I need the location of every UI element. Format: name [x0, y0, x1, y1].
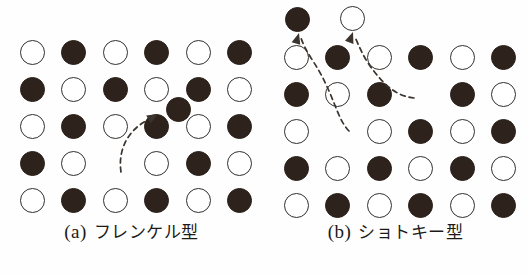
- lattice-atom-filled-r2c3: [367, 82, 392, 107]
- lattice-atom-filled-r1c4: [408, 45, 433, 70]
- lattice-atom-filled-r2c5: [186, 77, 211, 102]
- lattice-atom-open-r3c5: [186, 114, 211, 139]
- lattice-atom-filled-r3c2: [61, 114, 86, 139]
- lattice-atom-filled-r2c1: [284, 82, 309, 107]
- lattice-atom-open-r4c6: [227, 151, 252, 176]
- lattice-atom-filled-r2c3: [103, 77, 128, 102]
- lattice-atom-open-r4c6: [491, 156, 516, 181]
- lattice-grid-b: [264, 0, 527, 215]
- lattice-atom-filled-r2c5: [450, 82, 475, 107]
- lattice-atom-open-r5c5: [186, 188, 211, 213]
- lattice-atom-open-r4c4: [144, 151, 169, 176]
- lattice-atom-open-r1c5: [186, 40, 211, 65]
- panel-frenkel: (a)フレンケル型: [0, 0, 263, 275]
- lattice-atom-filled-r5c4: [144, 188, 169, 213]
- lattice-atom-open-r5c3: [367, 193, 392, 218]
- lattice-atom-filled-r5c2: [325, 193, 350, 218]
- caption-a: (a)フレンケル型: [0, 218, 263, 243]
- lattice-atom-open-r3c1: [20, 114, 45, 139]
- lattice-atom-open-r2c4: [144, 77, 169, 102]
- lattice-atom-open-r4c4: [408, 156, 433, 181]
- lattice-atom-filled-r1c2: [325, 45, 350, 70]
- lattice-atom-open-r1c5: [450, 45, 475, 70]
- lattice-atom-filled-r2c1: [20, 77, 45, 102]
- lattice-atom-open-r1c3: [103, 40, 128, 65]
- lattice-atom-filled-r4c1: [284, 156, 309, 181]
- lattice-atom-open-r2c6: [227, 77, 252, 102]
- lattice-atom-filled-r3c6: [227, 114, 252, 139]
- lattice-atom-filled-r5c6: [227, 188, 252, 213]
- lattice-atom-open-r3c1: [284, 119, 309, 144]
- lattice-atom-filled-r3c4: [144, 114, 169, 139]
- lattice-atom-filled-r5c4: [408, 193, 433, 218]
- lattice-atom-filled-r3c6: [491, 119, 516, 144]
- lattice-atom-open-r1c1: [20, 40, 45, 65]
- lattice-atom-open-r5c3: [103, 188, 128, 213]
- lattice-atom-filled-r5c6: [491, 193, 516, 218]
- caption-b-label: ショトキー型: [358, 222, 463, 242]
- lattice-atom-filled-r4c5: [186, 151, 211, 176]
- lattice-atom-open-r2c6: [491, 82, 516, 107]
- lattice-atom-open-r3c5: [450, 119, 475, 144]
- surface-atom-filled: [285, 7, 310, 32]
- lattice-atom-open-r3c3: [103, 114, 128, 139]
- lattice-atom-filled-r4c3: [367, 156, 392, 181]
- lattice-atom-open-r1c3: [367, 45, 392, 70]
- surface-atom-open: [340, 6, 365, 31]
- lattice-atom-open-r5c5: [450, 193, 475, 218]
- interstitial-atom: [166, 97, 191, 122]
- lattice-atom-open-r4c2: [61, 151, 86, 176]
- lattice-atom-open-r3c3: [367, 119, 392, 144]
- lattice-atom-open-r2c2: [61, 77, 86, 102]
- caption-a-index: (a): [64, 221, 87, 242]
- lattice-atom-filled-r1c6: [227, 40, 252, 65]
- lattice-atom-open-r5c1: [20, 188, 45, 213]
- lattice-atom-filled-r1c4: [144, 40, 169, 65]
- lattice-grid-a: [0, 0, 263, 215]
- caption-b-index: (b): [328, 221, 352, 242]
- caption-a-label: フレンケル型: [94, 222, 199, 242]
- caption-b: (b)ショトキー型: [264, 218, 527, 243]
- lattice-atom-open-r1c1: [284, 45, 309, 70]
- lattice-atom-filled-r1c2: [61, 40, 86, 65]
- lattice-atom-filled-r3c4: [408, 119, 433, 144]
- lattice-atom-filled-r4c1: [20, 151, 45, 176]
- lattice-atom-filled-r4c5: [450, 156, 475, 181]
- lattice-atom-open-r5c1: [284, 193, 309, 218]
- lattice-atom-open-r2c2: [325, 82, 350, 107]
- lattice-atom-filled-r1c6: [491, 45, 516, 70]
- panel-schottky: (b)ショトキー型: [264, 0, 527, 275]
- lattice-atom-open-r4c2: [325, 156, 350, 181]
- lattice-atom-filled-r5c2: [61, 188, 86, 213]
- defect-figure: (a)フレンケル型 (b)ショトキー型: [0, 0, 527, 275]
